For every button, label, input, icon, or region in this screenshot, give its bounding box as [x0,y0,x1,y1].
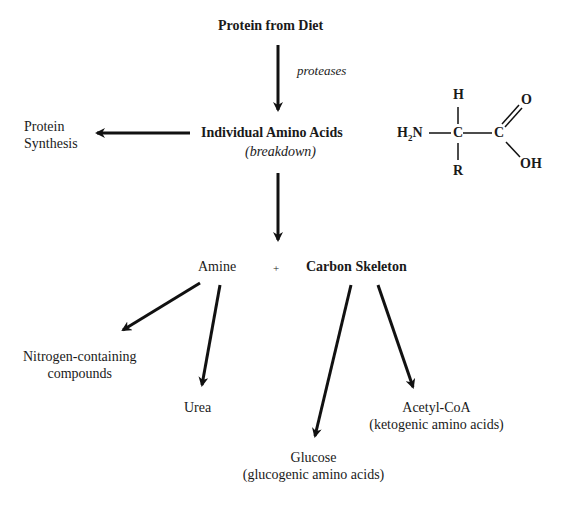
arrow-carbon-to-glucose [315,285,351,436]
node-carbon-skeleton: Carbon Skeleton [306,258,407,275]
label-proteases: proteases [297,62,346,79]
atom-c-carboxyl: C [494,125,504,141]
nitrogen-line2: compounds [23,365,137,382]
protein-synthesis-line1: Protein [24,118,78,135]
atom-oh: OH [520,156,542,172]
node-urea: Urea [184,399,211,416]
node-individual-amino-acids: Individual Amino Acids [201,124,343,141]
glucose-line2: (glucogenic amino acids) [236,466,391,483]
atom-n: N [412,125,422,140]
note-breakdown: (breakdown) [245,143,316,160]
acetyl-line1: Acetyl-CoA [364,399,509,416]
arrow-carbon-to-acetyl [378,285,413,387]
amino-acid-structure-bonds [429,105,522,160]
node-protein-from-diet: Protein from Diet [218,17,323,34]
atom-h-top: H [453,87,464,103]
node-glucose: Glucose (glucogenic amino acids) [236,449,391,483]
node-acetyl-coa: Acetyl-CoA (ketogenic amino acids) [364,399,509,433]
arrow-amine-to-nitrogen [123,283,200,330]
nitrogen-line1: Nitrogen-containing [23,348,137,365]
node-amine: Amine [198,258,236,275]
node-nitrogen-compounds: Nitrogen-containing compounds [23,348,137,382]
plus-sign: + [273,260,279,277]
node-protein-synthesis: Protein Synthesis [24,118,78,152]
acetyl-line2: (ketogenic amino acids) [364,416,509,433]
atom-r: R [453,163,463,179]
atom-h: H [397,125,408,140]
atom-amine-group: H2N [397,125,423,146]
protein-synthesis-line2: Synthesis [24,135,78,152]
arrows-layer [0,0,567,510]
arrow-amine-to-urea [202,285,220,385]
atom-o: O [521,92,532,108]
atom-c-alpha: C [453,125,463,141]
glucose-line1: Glucose [236,449,391,466]
